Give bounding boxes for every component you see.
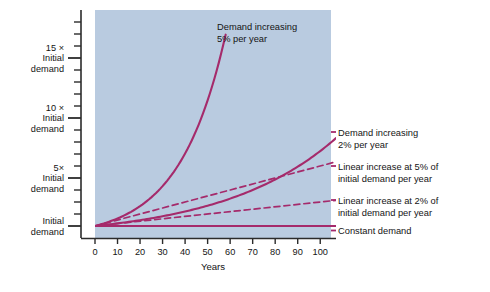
y-15x-line-1: 15 ×	[46, 43, 64, 53]
x-tick-label-90: 90	[293, 247, 303, 257]
y-10x-line-1: 10 ×	[46, 103, 64, 113]
y-5x-line-1: 5×	[54, 163, 64, 173]
annot-constant-line1: Constant demand	[338, 226, 411, 236]
y-10x-line-2: Initial	[43, 113, 64, 123]
annot-5pct-line2: 5% per year	[217, 34, 267, 44]
figure-container: 15 ×Initialdemand10 ×Initialdemand5×Init…	[0, 0, 490, 292]
x-axis-title: Years	[201, 261, 225, 272]
x-tick-label-30: 30	[157, 247, 167, 257]
annot-lin5-line2: initial demand per year	[338, 174, 432, 184]
demand-growth-chart: 15 ×Initialdemand10 ×Initialdemand5×Init…	[0, 0, 490, 292]
annot-lin2-line2: initial demand per year	[338, 208, 432, 218]
x-tick-label-0: 0	[92, 247, 97, 257]
y-5x-line-2: Initial	[43, 173, 64, 183]
annot-2pct-line1: Demand increasing	[338, 128, 418, 138]
y-5x-line-3: demand	[31, 184, 64, 194]
x-tick-label-50: 50	[202, 247, 212, 257]
y-1x-line-2: demand	[31, 227, 64, 237]
annotation-constant-demand: Constant demand	[338, 226, 411, 236]
y-10x-line-3: demand	[31, 124, 64, 134]
x-tick-label-20: 20	[135, 247, 145, 257]
annot-lin2-line1: Linear increase at 2% of	[338, 196, 439, 206]
x-tick-label-70: 70	[248, 247, 258, 257]
y-15x-line-3: demand	[31, 64, 64, 74]
y-15x-line-2: Initial	[43, 53, 64, 63]
x-tick-label-60: 60	[225, 247, 235, 257]
x-tick-label-40: 40	[180, 247, 190, 257]
annot-lin5-line1: Linear increase at 5% of	[338, 162, 439, 172]
x-tick-label-100: 100	[313, 247, 328, 257]
x-tick-label-10: 10	[112, 247, 122, 257]
annot-2pct-line2: 2% per year	[338, 140, 388, 150]
annot-5pct-line1: Demand increasing	[217, 22, 297, 32]
x-tick-label-80: 80	[270, 247, 280, 257]
y-1x-line-1: Initial	[43, 216, 64, 226]
